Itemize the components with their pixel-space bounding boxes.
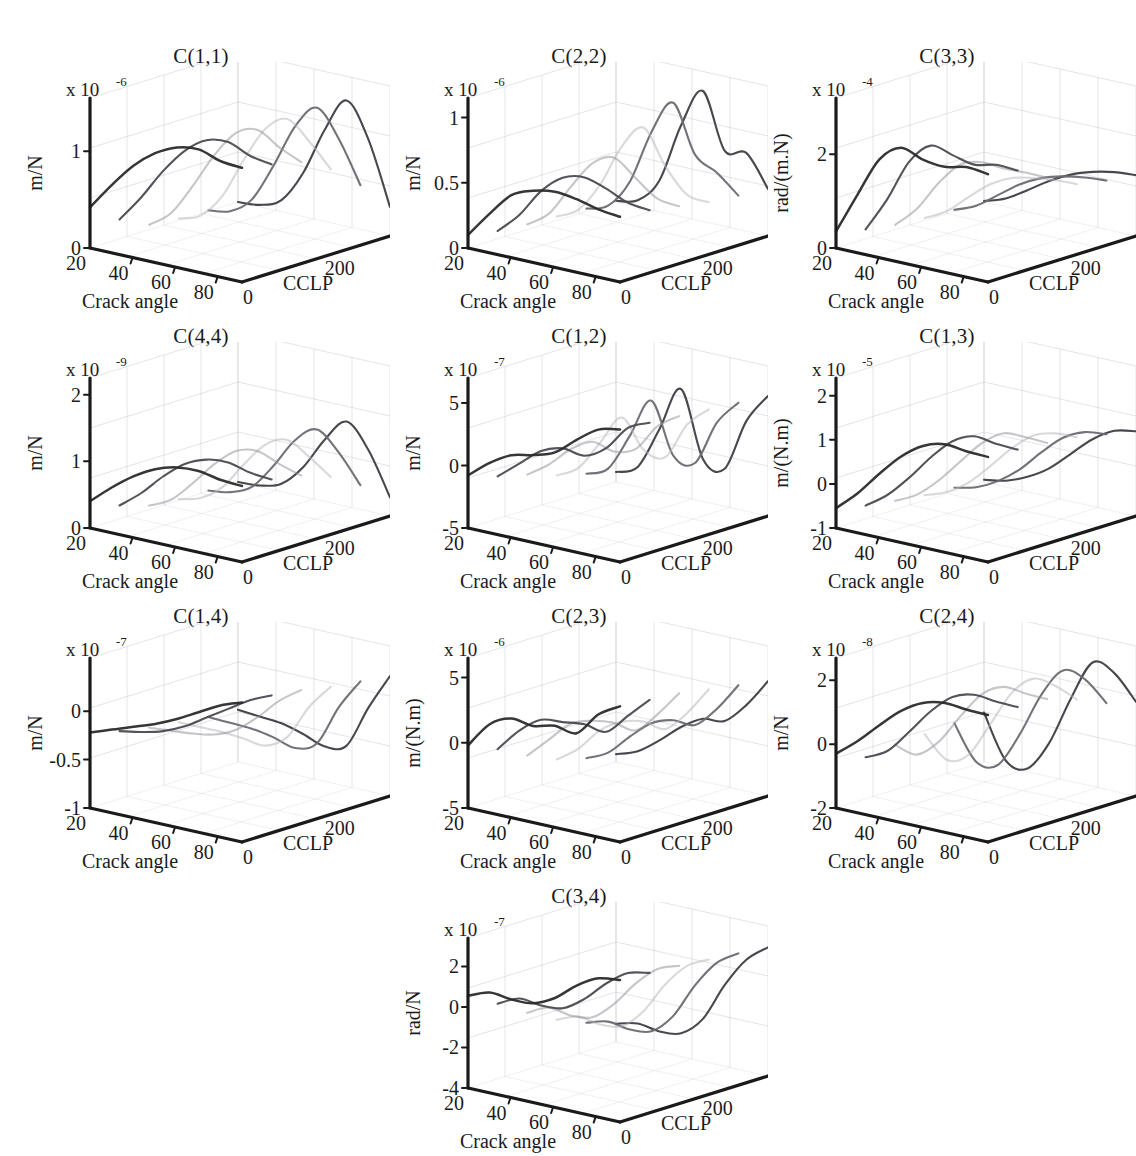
y-tick-label: 0: [989, 846, 999, 868]
subplot-c22: C(2,2)00.51m/Nx 10-6204060800200Crack an…: [390, 36, 768, 316]
svg-text:-8: -8: [862, 634, 873, 649]
curve-cclp-160: [586, 953, 738, 1032]
z-axis-label: m/N: [24, 155, 46, 191]
curve-cclp-120: [925, 678, 1077, 761]
x-tick-label: 20: [66, 252, 86, 274]
z-axis-label: rad/N: [402, 990, 424, 1036]
z-ticks: -505: [442, 667, 468, 819]
y-tick-label: 0: [621, 1126, 631, 1148]
x-tick-label: 20: [66, 812, 86, 834]
z-axis-label: m/N: [770, 715, 792, 751]
svg-text:-4: -4: [862, 74, 873, 89]
x-tick-label: 40: [109, 262, 129, 284]
exponent-annotation: x 10-7: [66, 634, 127, 660]
z-tick-label: 0: [817, 473, 827, 495]
x-tick-label: 20: [812, 252, 832, 274]
x-tick-label: 40: [855, 262, 875, 284]
z-tick-label: 0.5: [434, 172, 459, 194]
x-axis-label: Crack angle: [828, 570, 924, 593]
x-tick-label: 40: [487, 1102, 507, 1124]
svg-text:-6: -6: [494, 634, 505, 649]
y-axis-label: CCLP: [283, 272, 333, 294]
x-tick-label: 40: [109, 542, 129, 564]
svg-text:x 10: x 10: [444, 919, 477, 940]
curve-cclp-80: [895, 162, 1047, 225]
y-tick-label: 0: [621, 286, 631, 308]
data-curves: [90, 421, 390, 505]
exponent-annotation: x 10-6: [444, 634, 505, 660]
x-tick-label: 80: [940, 841, 960, 863]
x-axis-label: Crack angle: [82, 570, 178, 593]
x-tick-label: 40: [487, 822, 507, 844]
x-axis-label: Crack angle: [460, 1130, 556, 1153]
curve-cclp-80: [527, 966, 679, 1018]
subplot-c12: C(1,2)-505m/Nx 10-7204060800200Crack ang…: [390, 316, 768, 596]
curve-cclp-160: [954, 176, 1106, 209]
z-axis-label: rad/(m.N): [770, 133, 793, 212]
curve-cclp-80: [527, 416, 679, 475]
exponent-annotation: x 10-8: [812, 634, 873, 660]
exponent-annotation: x 10-6: [444, 74, 505, 100]
curve-cclp-40: [866, 145, 1018, 229]
x-axis-label: Crack angle: [460, 290, 556, 313]
z-ticks: 012: [71, 384, 90, 539]
z-axis-label: m/N: [24, 715, 46, 751]
x-tick-label: 20: [444, 252, 464, 274]
curve-cclp-120: [557, 127, 709, 216]
data-curves: [468, 681, 768, 759]
curve-cclp-120: [925, 177, 1077, 218]
z-tick-label: 5: [449, 667, 459, 689]
y-axis-label: CCLP: [661, 832, 711, 854]
svg-text:x 10: x 10: [812, 359, 845, 380]
x-axis-label: Crack angle: [82, 290, 178, 313]
curve-cclp-40: [498, 423, 650, 477]
y-tick-label: 0: [243, 286, 253, 308]
x-tick-label: 20: [444, 812, 464, 834]
x-tick-label: 20: [66, 532, 86, 554]
svg-text:x 10: x 10: [66, 639, 99, 660]
x-tick-label: 80: [940, 561, 960, 583]
z-ticks: -1012: [810, 385, 836, 539]
z-axis-label: m/(N.m): [770, 418, 793, 487]
subplot-c34: C(3,4)-4-202rad/Nx 10-7204060800200Crack…: [390, 876, 768, 1156]
x-tick-label: 40: [487, 542, 507, 564]
z-tick-label: 2: [449, 955, 459, 977]
svg-text:-6: -6: [116, 74, 127, 89]
data-curves: [90, 100, 390, 224]
x-axis-label: Crack angle: [460, 570, 556, 593]
z-tick-label: 2: [71, 384, 81, 406]
data-curves: [836, 430, 1136, 508]
x-tick-label: 80: [194, 841, 214, 863]
curve-cclp-160: [954, 432, 1106, 488]
y-tick-label: 0: [243, 566, 253, 588]
y-axis-label: CCLP: [1029, 552, 1079, 574]
exponent-annotation: x 10-7: [444, 914, 505, 940]
y-tick-label: 0: [621, 846, 631, 868]
x-axis-label: Crack angle: [828, 290, 924, 313]
z-tick-label: -2: [442, 1036, 459, 1058]
svg-text:-7: -7: [116, 634, 127, 649]
curve-cclp-160: [586, 102, 738, 208]
z-tick-label: 0: [449, 732, 459, 754]
y-tick-label: 0: [621, 566, 631, 588]
y-tick-label: 0: [243, 846, 253, 868]
x-tick-label: 80: [194, 281, 214, 303]
data-curves: [836, 661, 1136, 769]
data-curves: [468, 947, 768, 1034]
x-tick-label: 80: [572, 281, 592, 303]
z-tick-label: 1: [71, 450, 81, 472]
svg-text:x 10: x 10: [812, 639, 845, 660]
z-axis-label: m/N: [24, 435, 46, 471]
exponent-annotation: x 10-7: [444, 354, 505, 380]
curve-cclp-160: [208, 107, 360, 211]
svg-text:-5: -5: [862, 354, 873, 369]
x-tick-label: 80: [194, 561, 214, 583]
svg-text:x 10: x 10: [444, 359, 477, 380]
y-axis-label: CCLP: [283, 552, 333, 574]
x-tick-label: 40: [487, 262, 507, 284]
z-tick-label: 0: [817, 733, 827, 755]
data-curves: [836, 145, 1136, 231]
x-axis-label: Crack angle: [82, 850, 178, 873]
z-tick-label: 0: [71, 700, 81, 722]
